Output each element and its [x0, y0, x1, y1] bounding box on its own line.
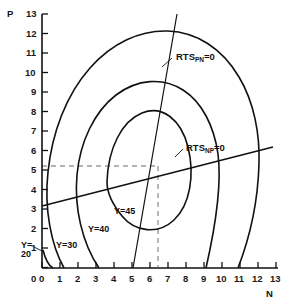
axes	[42, 14, 278, 268]
rts-np-base: RTS	[186, 142, 205, 153]
y-tick-label-2: 2	[31, 224, 36, 234]
x-tick-label-3: 3	[93, 274, 98, 284]
y-tick-label-12: 12	[26, 29, 37, 39]
x-tick-label-5: 5	[129, 274, 134, 284]
contour-y20	[43, 250, 53, 268]
contour-label-y30: Y=30	[56, 241, 77, 250]
isoquant-contour-chart: 13 12 11 10 9 8 7 6 5 4 3 2 1 0 0 1 2 3 …	[0, 0, 291, 304]
x-tick-label-1: 1	[57, 274, 62, 284]
y-tick-label-8: 8	[31, 107, 36, 117]
rts-np-annotation: RTSNP=0	[186, 143, 225, 153]
contour-lines	[43, 31, 259, 268]
contour-label-y40: Y=40	[88, 225, 109, 234]
x-tick-label-11: 11	[234, 274, 244, 284]
y-axis-title: P	[7, 9, 13, 19]
x-tick-label-0: 0	[39, 274, 44, 284]
rts-pn-base: RTS	[176, 51, 195, 62]
contour-label-y20: Y= 20	[21, 241, 32, 259]
rts-np-subscript: NP	[205, 147, 214, 154]
y-tick-label-6: 6	[31, 146, 36, 156]
contour-label-y45: Y=45	[114, 207, 135, 216]
x-tick-label-9: 9	[201, 274, 206, 284]
y-axis-ticks	[42, 14, 48, 268]
x-tick-label-10: 10	[216, 274, 227, 284]
leader-lines	[34, 58, 183, 252]
contour-label-y20-line2: 20	[21, 249, 31, 259]
x-axis-ticks	[42, 262, 276, 268]
x-axis-title: N	[266, 289, 273, 299]
y-tick-label-5: 5	[31, 165, 36, 175]
chart-canvas	[0, 0, 291, 304]
y-tick-label-3: 3	[31, 204, 36, 214]
x-tick-label-2: 2	[75, 274, 80, 284]
y-tick-label-11: 11	[26, 48, 36, 58]
x-tick-label-8: 8	[183, 274, 188, 284]
x-tick-label-7: 7	[165, 274, 170, 284]
y-tick-label-9: 9	[31, 87, 36, 97]
x-tick-label-6: 6	[147, 274, 152, 284]
leader-rts-np	[175, 149, 183, 157]
rts-pn-annotation: RTSPN=0	[176, 52, 215, 62]
y-tick-label-4: 4	[31, 185, 36, 195]
x-tick-label-13: 13	[270, 274, 281, 284]
x-tick-label-12: 12	[252, 274, 263, 284]
y-tick-label-10: 10	[25, 68, 36, 78]
y-tick-label-0: 0	[31, 274, 36, 284]
x-tick-label-4: 4	[111, 274, 116, 284]
rts-pn-suffix: =0	[204, 51, 215, 62]
rts-pn-subscript: PN	[195, 56, 204, 63]
y-tick-label-13: 13	[26, 9, 37, 19]
contour-y40	[76, 81, 219, 268]
rts-np-suffix: =0	[214, 142, 225, 153]
y-tick-label-7: 7	[31, 126, 36, 136]
leader-rts-pn	[162, 58, 172, 67]
